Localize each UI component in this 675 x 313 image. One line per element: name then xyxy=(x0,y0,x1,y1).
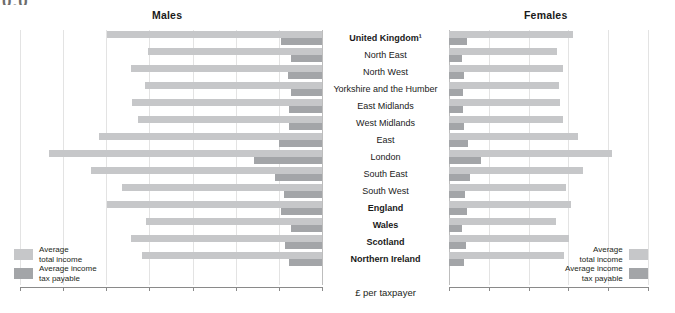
axis-line-males xyxy=(20,287,322,288)
bar-row xyxy=(20,81,322,98)
legend-tax-line1: Average income xyxy=(39,264,97,274)
axis-tick xyxy=(149,287,150,291)
bar-average-income-tax-payable xyxy=(449,208,467,215)
bar-row xyxy=(449,217,648,234)
axis-center-label: £ per taxpayer xyxy=(326,287,445,298)
legend-tax-line2: tax payable xyxy=(39,274,97,284)
category-label: Northern Ireland xyxy=(326,251,445,268)
bar-average-income-tax-payable xyxy=(449,123,464,130)
chart-root: 0.0 Males Females 04,0008,00012,00016,00… xyxy=(0,0,675,313)
axis-tick xyxy=(322,287,323,291)
bar-average-income-tax-payable xyxy=(289,123,322,130)
bar-average-total-income xyxy=(131,65,322,72)
bar-average-total-income xyxy=(146,218,322,225)
bar-average-total-income xyxy=(138,116,322,123)
bar-average-total-income xyxy=(449,65,563,72)
bar-average-income-tax-payable xyxy=(281,38,322,45)
bar-average-total-income xyxy=(132,99,322,106)
bar-average-income-tax-payable xyxy=(291,55,322,62)
bar-average-total-income xyxy=(449,116,563,123)
category-label: England xyxy=(326,200,445,217)
category-label: Scotland xyxy=(326,234,445,251)
bar-average-total-income xyxy=(49,150,322,157)
axis-tick xyxy=(529,287,530,291)
bar-average-income-tax-payable xyxy=(449,259,464,266)
tax-swatch-icon xyxy=(629,268,648,279)
bar-row xyxy=(449,64,648,81)
axis-tick xyxy=(489,287,490,291)
bar-row xyxy=(449,115,648,132)
bar-average-income-tax-payable xyxy=(449,55,462,62)
bar-average-total-income xyxy=(142,252,322,259)
legend-income-line1: Average xyxy=(580,245,623,255)
legend-item-tax: Average income tax payable xyxy=(14,264,97,283)
bar-average-income-tax-payable xyxy=(449,174,470,181)
tax-swatch-icon xyxy=(14,268,33,279)
legend-income-text: Average total income xyxy=(39,245,82,264)
bar-average-income-tax-payable xyxy=(281,208,322,215)
bar-average-total-income xyxy=(99,133,322,140)
bar-average-income-tax-payable xyxy=(275,174,322,181)
axis-tick xyxy=(236,287,237,291)
bar-row xyxy=(449,98,648,115)
bar-average-income-tax-payable xyxy=(285,242,322,249)
bar-average-income-tax-payable xyxy=(289,106,322,113)
bar-row xyxy=(20,166,322,183)
axis-tick xyxy=(608,287,609,291)
bar-average-income-tax-payable xyxy=(291,89,322,96)
axis-tick xyxy=(63,287,64,291)
bar-row xyxy=(449,30,648,47)
bar-average-total-income xyxy=(449,218,556,225)
bar-row xyxy=(449,132,648,149)
category-label: East Midlands xyxy=(326,98,445,115)
bar-row xyxy=(20,47,322,64)
bar-row xyxy=(20,98,322,115)
category-label: North East xyxy=(326,47,445,64)
bar-average-total-income xyxy=(449,235,569,242)
bar-average-income-tax-payable xyxy=(291,225,322,232)
legend-tax-text: Average income tax payable xyxy=(39,264,97,283)
bar-average-total-income xyxy=(449,31,573,38)
category-label: Yorkshire and the Humber xyxy=(326,81,445,98)
bar-row xyxy=(449,47,648,64)
bar-average-income-tax-payable xyxy=(449,157,481,164)
bar-row xyxy=(20,64,322,81)
gridline xyxy=(322,30,323,285)
category-label: United Kingdom¹ xyxy=(326,30,445,47)
bar-average-income-tax-payable xyxy=(449,106,463,113)
legend-left: Average total income Average income tax … xyxy=(14,245,97,283)
bar-average-income-tax-payable xyxy=(289,259,322,266)
bar-average-total-income xyxy=(449,99,560,106)
axis-tick xyxy=(279,287,280,291)
bar-average-total-income xyxy=(148,48,322,55)
axis-tick xyxy=(193,287,194,291)
panel-title-males: Males xyxy=(152,9,182,21)
bar-average-total-income xyxy=(449,133,578,140)
category-label: London xyxy=(326,149,445,166)
bar-average-total-income xyxy=(145,82,322,89)
legend-income-line1: Average xyxy=(39,245,82,255)
bar-row xyxy=(20,149,322,166)
legend-tax-text: Average income tax payable xyxy=(565,264,623,283)
bar-average-total-income xyxy=(449,48,557,55)
bar-average-income-tax-payable xyxy=(288,72,323,79)
bar-row xyxy=(20,132,322,149)
axis-tick xyxy=(449,287,450,291)
income-swatch-icon xyxy=(629,249,648,260)
legend-income-line2: total income xyxy=(39,255,82,265)
bar-average-income-tax-payable xyxy=(279,140,322,147)
bar-average-total-income xyxy=(91,167,322,174)
bar-row xyxy=(20,217,322,234)
bar-average-total-income xyxy=(131,235,322,242)
axis-tick xyxy=(20,287,21,291)
income-swatch-icon xyxy=(14,249,33,260)
category-label: Wales xyxy=(326,217,445,234)
bar-average-total-income xyxy=(449,184,566,191)
legend-item-tax: Average income tax payable xyxy=(565,264,648,283)
category-label-column: United Kingdom¹North EastNorth WestYorks… xyxy=(326,30,445,285)
bar-average-total-income xyxy=(122,184,322,191)
bar-row xyxy=(449,183,648,200)
category-label: South East xyxy=(326,166,445,183)
gridline xyxy=(648,30,649,285)
axis-line-females xyxy=(449,287,648,288)
